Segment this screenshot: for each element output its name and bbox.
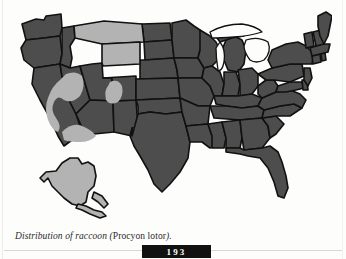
caption-prefix: Distribution of raccoon ( [15,231,113,241]
state-oregon [21,36,62,68]
state-wyoming [102,42,140,66]
book-page: Distribution of raccoon (Procyon lotor).… [0,0,346,259]
state-idaho [60,26,75,68]
caption-species-name: Procyon lotor [113,231,166,241]
state-north-dakota [142,23,172,42]
state-nebraska [140,58,178,79]
state-montana [74,21,144,44]
us-distribution-map [14,6,332,228]
page-number-badge: 193 [142,245,211,258]
alaska-panhandle [92,192,108,208]
state-texas [130,112,190,192]
state-indiana [222,72,240,96]
state-alaska-inset [40,158,96,206]
caption-suffix: ). [166,231,172,241]
state-oklahoma [136,98,182,114]
state-vermont [304,32,314,48]
state-maryland [276,82,304,92]
state-south-dakota [144,40,174,60]
state-michigan [222,36,246,72]
figure-caption: Distribution of raccoon (Procyon lotor). [15,231,172,241]
state-florida [226,146,288,198]
state-ohio [238,68,258,96]
distribution-map-figure [0,0,346,236]
state-kansas [136,78,180,100]
water-lake-superior [210,24,262,38]
water-lake-huron-erie [244,38,269,62]
